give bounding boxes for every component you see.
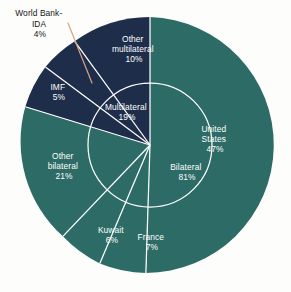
label-imf: IMF 5% xyxy=(50,82,67,102)
pie-chart-figure: United States 47% France 7% Kuwait 6% Ot… xyxy=(0,0,291,292)
pie-chart-svg: United States 47% France 7% Kuwait 6% Ot… xyxy=(0,0,291,292)
callout-label-world-bank-ida: World Bank- IDA 4% xyxy=(15,8,64,39)
